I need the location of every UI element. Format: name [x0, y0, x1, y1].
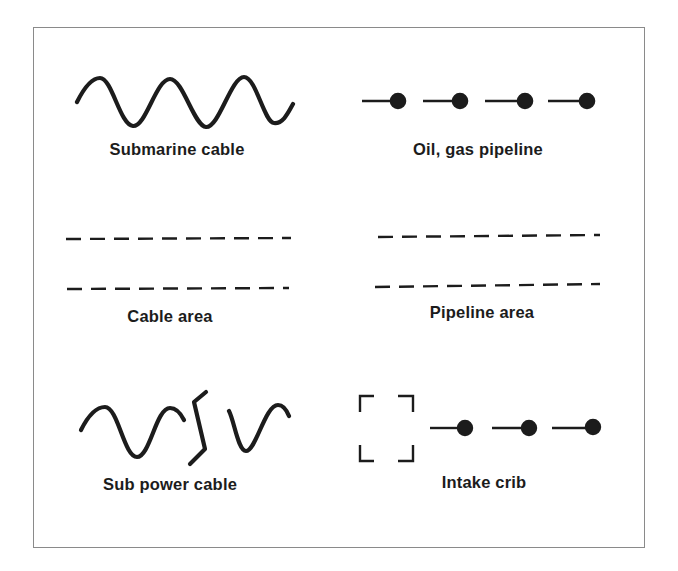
oil-gas-pipeline-symbol-icon [362, 94, 594, 108]
legend-symbols [0, 0, 678, 571]
cable-area-symbol-icon [66, 238, 291, 289]
sub-power-cable-label: Sub power cable [103, 475, 237, 494]
sub-power-cable-symbol-icon [81, 392, 289, 464]
intake-crib-label: Intake crib [442, 473, 527, 492]
pipeline-area-symbol-icon [375, 235, 600, 287]
oil-gas-pipeline-label: Oil, gas pipeline [413, 140, 543, 159]
intake-crib-symbol-icon [360, 396, 600, 461]
submarine-cable-symbol-icon [77, 77, 293, 127]
submarine-cable-label: Submarine cable [109, 140, 244, 159]
cable-area-label: Cable area [127, 307, 212, 326]
pipeline-area-label: Pipeline area [430, 303, 534, 322]
